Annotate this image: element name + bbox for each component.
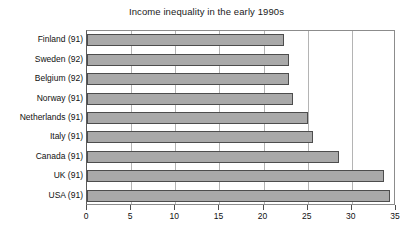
- bar-row: [87, 167, 394, 186]
- x-tick-mark: [307, 205, 308, 210]
- bar-row: [87, 187, 394, 206]
- x-tick-label: 20: [258, 211, 267, 221]
- x-tick-mark: [263, 205, 264, 210]
- x-tick-mark: [174, 205, 175, 210]
- bar: [87, 151, 339, 163]
- category-label: Italy (91): [1, 131, 83, 141]
- category-label: Sweden (92): [1, 54, 83, 64]
- bar: [87, 73, 289, 85]
- category-label: Canada (91): [1, 151, 83, 161]
- plot-area: [86, 30, 395, 205]
- bar: [87, 131, 313, 143]
- bar-row: [87, 31, 394, 50]
- bar: [87, 54, 289, 66]
- bar: [87, 170, 384, 182]
- x-tick-mark: [130, 205, 131, 210]
- y-axis-category-labels: Finland (91)Sweden (92)Belgium (92)Norwa…: [0, 0, 83, 250]
- x-tick-mark: [86, 205, 87, 210]
- bar-row: [87, 128, 394, 147]
- bar: [87, 190, 390, 202]
- category-label: Netherlands (91): [1, 112, 83, 122]
- bar-row: [87, 148, 394, 167]
- x-tick-label: 15: [214, 211, 223, 221]
- bar-row: [87, 50, 394, 69]
- category-label: Finland (91): [1, 34, 83, 44]
- bar-row: [87, 109, 394, 128]
- x-axis: 05101520253035: [86, 205, 395, 235]
- x-tick-label: 25: [302, 211, 311, 221]
- bar-row: [87, 89, 394, 108]
- x-tick-label: 0: [84, 211, 89, 221]
- category-label: UK (91): [1, 170, 83, 180]
- chart-screenshot: Income inequality in the early 1990s Fin…: [0, 0, 413, 250]
- x-tick-label: 30: [346, 211, 355, 221]
- category-label: Norway (91): [1, 93, 83, 103]
- bar: [87, 34, 284, 46]
- x-tick-mark: [351, 205, 352, 210]
- x-tick-label: 10: [170, 211, 179, 221]
- x-tick-mark: [218, 205, 219, 210]
- bar: [87, 93, 293, 105]
- x-tick-label: 35: [390, 211, 399, 221]
- bar: [87, 112, 308, 124]
- category-label: USA (91): [1, 190, 83, 200]
- x-tick-mark: [395, 205, 396, 210]
- bar-row: [87, 70, 394, 89]
- x-tick-label: 5: [128, 211, 133, 221]
- category-label: Belgium (92): [1, 73, 83, 83]
